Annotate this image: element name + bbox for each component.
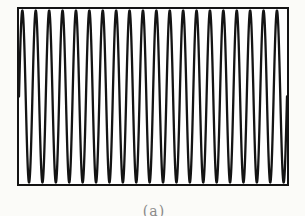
figure-caption: (a) [120, 203, 188, 216]
sine-wave-path [19, 11, 287, 183]
waveform-frame [17, 7, 289, 186]
sine-wave-trace [19, 9, 287, 184]
waveform-figure: (a) [0, 0, 305, 216]
